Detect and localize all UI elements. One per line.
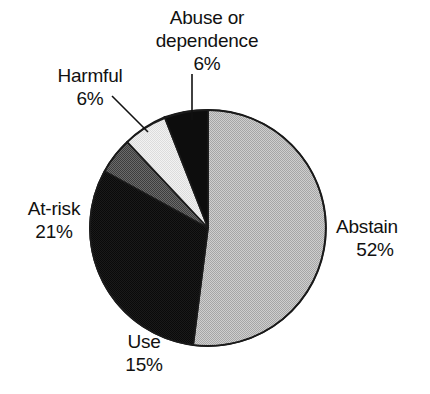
pie-label-at-risk-name: At-risk — [2, 197, 106, 220]
pie-value-use: 15% — [96, 353, 192, 376]
pie-label-abstain: Abstain 52% — [336, 215, 428, 261]
pie-slice-abstain[interactable] — [193, 110, 326, 346]
pie-value-abuse-or-dependence: 6% — [128, 52, 286, 75]
pie-label-harmful: Harmful 6% — [34, 64, 146, 110]
pie-label-use: Use 15% — [96, 330, 192, 376]
pie-label-abstain-name: Abstain — [336, 215, 428, 238]
pie-label-at-risk: At-risk 21% — [2, 197, 106, 243]
pie-value-harmful: 6% — [34, 87, 146, 110]
pie-chart-figure: Abuse or dependence 6% Harmful 6% At-ris… — [0, 0, 430, 394]
pie-label-harmful-name: Harmful — [34, 64, 146, 87]
pie-value-abstain: 52% — [336, 238, 414, 261]
pie-value-at-risk: 21% — [2, 220, 106, 243]
pie-label-use-name: Use — [96, 330, 192, 353]
pie-label-abuse-or-dependence: Abuse or dependence 6% — [128, 6, 286, 75]
pie-label-abuse-or-dependence-line2: dependence — [128, 29, 286, 52]
pie-label-abuse-or-dependence-line1: Abuse or — [128, 6, 286, 29]
